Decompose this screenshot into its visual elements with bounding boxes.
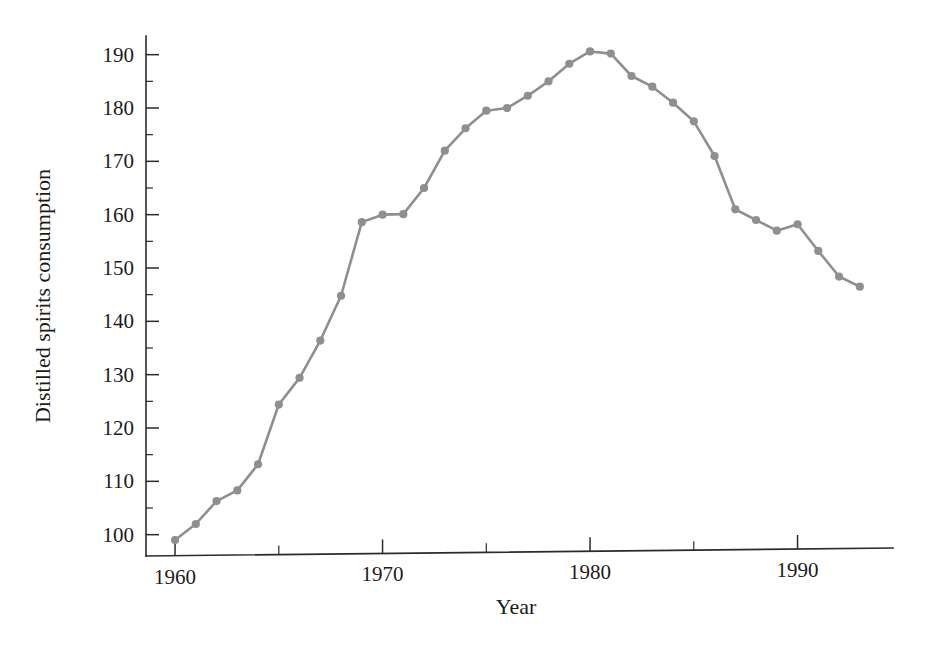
chart-figure: 100110120130140150160170180190 196019701… — [0, 0, 928, 654]
y-tick-label: 130 — [103, 363, 135, 387]
data-point — [648, 83, 656, 91]
data-point — [171, 536, 179, 544]
y-tick-label: 190 — [103, 43, 135, 67]
data-point — [565, 60, 573, 68]
y-tick-label: 140 — [103, 309, 135, 333]
x-axis-title: Year — [496, 594, 537, 619]
data-point — [212, 497, 220, 505]
data-point — [358, 218, 366, 226]
data-point — [607, 50, 615, 58]
data-point — [524, 92, 532, 100]
y-axis-title: Distilled spirits consumption — [30, 169, 55, 423]
data-point — [814, 247, 822, 255]
data-point — [254, 460, 262, 468]
data-point — [441, 147, 449, 155]
data-point — [233, 486, 241, 494]
data-point — [690, 117, 698, 125]
x-tick-label: 1970 — [362, 562, 404, 586]
data-point — [835, 272, 843, 280]
data-point — [773, 227, 781, 235]
data-point — [337, 292, 345, 300]
x-tick-label: 1960 — [154, 565, 196, 589]
data-point — [627, 72, 635, 80]
y-tick-label: 170 — [103, 149, 135, 173]
data-point — [752, 216, 760, 224]
y-tick-label: 110 — [103, 469, 134, 493]
data-point — [192, 520, 200, 528]
y-tick-label: 150 — [103, 256, 135, 280]
data-point — [710, 152, 718, 160]
data-point — [503, 104, 511, 112]
data-point — [856, 283, 864, 291]
data-point — [731, 205, 739, 213]
y-tick-label: 180 — [103, 96, 135, 120]
x-tick-label: 1980 — [569, 560, 611, 584]
data-point — [482, 107, 490, 115]
data-point — [420, 184, 428, 192]
data-point — [399, 210, 407, 218]
data-point — [295, 374, 303, 382]
y-tick-label: 160 — [103, 203, 135, 227]
data-point — [586, 47, 594, 55]
data-point — [275, 400, 283, 408]
data-point — [461, 124, 469, 132]
x-tick-label: 1990 — [777, 558, 819, 582]
y-tick-label: 100 — [103, 523, 135, 547]
data-point — [544, 77, 552, 85]
y-tick-label: 120 — [103, 416, 135, 440]
data-point — [793, 220, 801, 228]
line-chart: 100110120130140150160170180190 196019701… — [0, 0, 928, 654]
chart-background — [0, 0, 928, 654]
data-point — [316, 336, 324, 344]
data-point — [378, 211, 386, 219]
data-point — [669, 99, 677, 107]
